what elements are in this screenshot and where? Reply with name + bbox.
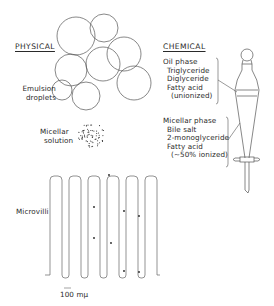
physical-heading: PHYSICAL <box>15 43 55 52</box>
oil-phase-note: (unionized) <box>163 92 213 101</box>
chemical-heading: CHEMICAL <box>163 43 206 52</box>
oil-phase-list: Oil phase Triglyceride Diglyceride Fatty… <box>163 58 213 101</box>
oil-phase-bracket <box>216 58 237 104</box>
emulsion-label-line2: droplets <box>20 94 56 103</box>
micellar-solution-label: Micellar solution <box>40 128 73 145</box>
separatory-funnel-icon <box>233 49 260 193</box>
emulsion-droplets-label: Emulsion droplets <box>20 85 56 102</box>
emulsion-droplets-icon <box>52 14 151 110</box>
micellar-label-line2: solution <box>40 137 73 146</box>
microvilli-icon <box>45 176 160 278</box>
microvilli-label: Microvilli <box>16 208 49 217</box>
micellar-phase-note: (~50% ionized) <box>163 151 229 160</box>
micellar-phase-list: Micellar phase Bile salt 2-monoglyceride… <box>163 117 229 160</box>
micellar-solution-icon <box>78 124 104 147</box>
scale-label: 100 mμ <box>60 291 88 300</box>
